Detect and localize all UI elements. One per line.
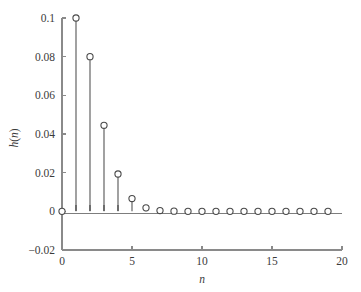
y-axis-title: h(n) (8, 128, 21, 147)
stem-marker (325, 208, 331, 214)
stem-marker (255, 208, 261, 214)
stem-marker (115, 171, 121, 177)
stem-marker (157, 207, 163, 213)
x-axis-tick-labels: 05101520 (59, 255, 348, 267)
x-tick-label: 0 (59, 255, 65, 267)
y-tick-label: −0.02 (28, 244, 55, 256)
stem-marker (269, 208, 275, 214)
stem-marker (73, 15, 79, 21)
y-tick-label: 0.04 (35, 128, 55, 140)
stem-marker (297, 208, 303, 214)
stem-marker (171, 208, 177, 214)
stem-markers (59, 15, 331, 215)
stem-marker (87, 54, 93, 60)
stem-marker (101, 122, 107, 128)
stem-marker (227, 208, 233, 214)
figure-canvas: −0.0200.020.040.060.080.1 05101520 h(n) … (0, 0, 361, 292)
y-tick-label: 0.1 (41, 12, 56, 24)
y-axis-title-group: h(n) (8, 128, 21, 147)
x-tick-label: 15 (266, 255, 278, 267)
stem-marker (185, 208, 191, 214)
y-tick-label: 0.02 (35, 167, 55, 179)
x-tick-label: 5 (129, 255, 135, 267)
stem-marker (199, 208, 205, 214)
y-tick-label: 0 (49, 205, 55, 217)
stem-marker (59, 208, 65, 214)
y-tick-label: 0.08 (35, 51, 55, 63)
x-tick-label: 10 (196, 255, 208, 267)
stem-marker (241, 208, 247, 214)
x-axis-title: n (199, 273, 205, 285)
stem-marker (283, 208, 289, 214)
stem-plot: −0.0200.020.040.060.080.1 05101520 h(n) … (0, 0, 361, 292)
y-axis-ticks (62, 18, 66, 250)
stem-series (76, 18, 160, 211)
y-axis-tick-labels: −0.0200.020.040.060.080.1 (28, 12, 55, 256)
stem-marker (143, 205, 149, 211)
x-tick-label: 20 (336, 255, 348, 267)
y-tick-label: 0.06 (35, 89, 55, 101)
stem-marker (213, 208, 219, 214)
stem-marker (129, 195, 135, 201)
x-axis-ticks (62, 246, 342, 250)
x-axis-minor-ticks (76, 205, 118, 211)
stem-marker (311, 208, 317, 214)
